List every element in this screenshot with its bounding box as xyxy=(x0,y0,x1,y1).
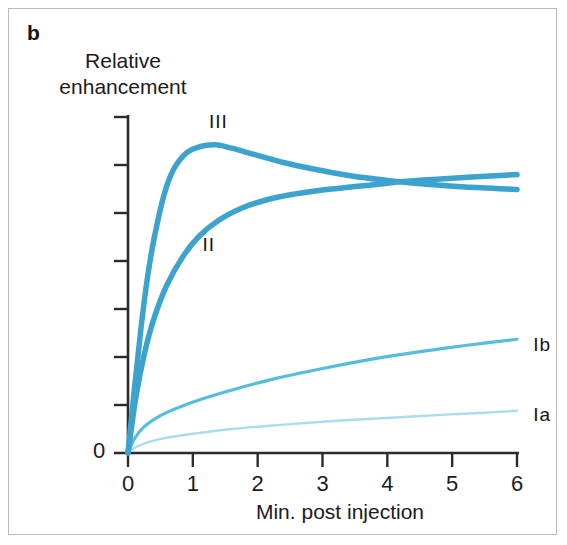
chart-plot-area xyxy=(0,0,567,545)
x-tick-label-1: 1 xyxy=(173,473,213,495)
x-tick-label-4: 4 xyxy=(367,473,407,495)
curves-group xyxy=(128,145,517,453)
x-tick-label-2: 2 xyxy=(238,473,278,495)
curve-label-Ia: Ia xyxy=(533,405,551,424)
x-axis-title: Min. post injection xyxy=(150,500,530,524)
curve-label-Ib: Ib xyxy=(533,335,551,354)
y-axis-zero-label: 0 xyxy=(93,440,105,462)
curve-label-II: II xyxy=(203,235,216,254)
x-tick-label-6: 6 xyxy=(497,473,537,495)
x-tick-label-5: 5 xyxy=(432,473,472,495)
figure-root: b Relative enhancement 01234560IIIIIIbIa… xyxy=(0,0,567,545)
x-tick-label-0: 0 xyxy=(108,473,148,495)
curve-Ia xyxy=(128,411,517,453)
curve-label-III: III xyxy=(209,112,228,131)
x-tick-label-3: 3 xyxy=(303,473,343,495)
curve-Ib xyxy=(128,339,517,453)
curve-II xyxy=(128,175,517,453)
